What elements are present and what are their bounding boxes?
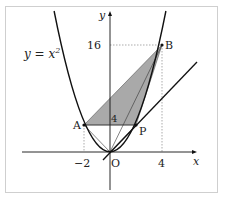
shaded-triangle-abp [84,45,162,125]
label-b: B [165,39,173,52]
diagram-canvas: y = x2 y x O 16 4 −2 4 A B P [0,0,225,197]
y-axis-arrow-icon [108,11,112,16]
tick-x4: 4 [158,157,165,170]
point-p [134,123,137,126]
x-axis-arrow-icon [192,150,197,154]
origin-label: O [111,157,120,170]
x-axis-label: x [193,155,200,168]
curve-label: y = x2 [23,46,60,61]
label-a: A [72,119,82,132]
tick-x-neg2: −2 [74,157,90,170]
point-b [160,43,163,46]
tick-y16: 16 [87,39,101,52]
label-p: P [139,125,147,138]
tick-y4: 4 [111,113,117,124]
point-a [82,123,85,126]
y-axis-label: y [98,9,106,22]
